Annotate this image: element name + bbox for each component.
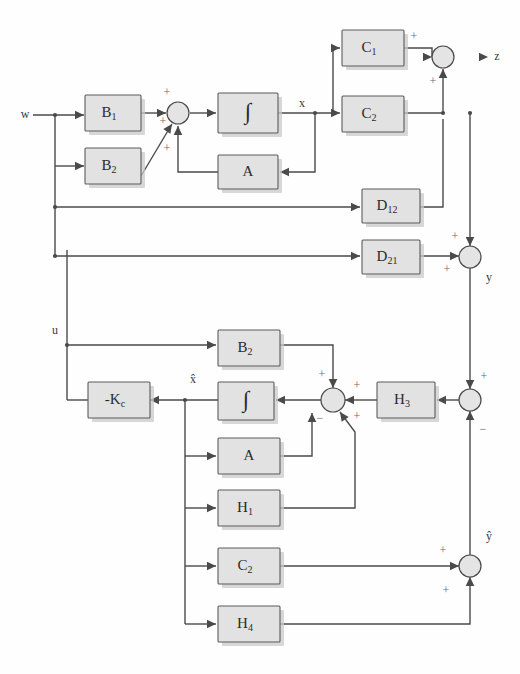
- sign-mark-s4-top: +: [319, 367, 326, 381]
- summing-junction-circle: [459, 555, 481, 577]
- block-label-subscript: 2: [248, 346, 253, 357]
- sign-mark-s2-top: +: [411, 29, 418, 43]
- block-label-subscript: 1: [372, 46, 377, 57]
- sign-mark-s1-bot: +: [164, 141, 171, 155]
- block-h4[interactable]: H4: [218, 606, 284, 646]
- dot-w-tap: [53, 113, 57, 117]
- signal-label-x: x: [299, 96, 305, 110]
- sign-mark-s3-bot: +: [444, 262, 451, 276]
- summing-junction-s3[interactable]: [459, 246, 481, 268]
- signal-label-xhat: x̂: [190, 372, 196, 386]
- block-b2t[interactable]: B2: [85, 148, 145, 188]
- signal-label-w: w: [21, 107, 30, 121]
- dot-c2out: [441, 111, 445, 115]
- block-label-subscript: 12: [387, 204, 397, 215]
- arrowhead-ar-sum5-t: [466, 380, 475, 389]
- sign-mark-s6-left: +: [440, 543, 447, 557]
- block-label-subscript: 3: [405, 398, 410, 409]
- arrowhead-ar-sum6-b: [466, 577, 475, 586]
- block-layer: B1B2∫AC1C2D12D21B2-Kc∫H3AH1C2H4: [85, 30, 439, 646]
- wire-x-down-a: [280, 113, 315, 172]
- block-a1[interactable]: A: [218, 155, 282, 193]
- arrowhead-ar-b2b-in: [207, 341, 216, 350]
- arrowhead-ar-b2-in: [75, 162, 84, 171]
- block-a2[interactable]: A: [218, 438, 284, 478]
- arrowhead-ar-h4-in: [207, 620, 216, 629]
- summing-junction-circle: [459, 246, 481, 268]
- summing-junction-circle: [459, 389, 481, 411]
- block-d12[interactable]: D12: [362, 189, 424, 227]
- block-int1[interactable]: ∫: [218, 93, 282, 137]
- arrowhead-ar-z: [479, 53, 488, 62]
- block-diagram-svg: B1B2∫AC1C2D12D21B2-Kc∫H3AH1C2H4 ++++++++…: [0, 0, 520, 674]
- block-label-subscript: 2: [372, 112, 377, 123]
- arrowhead-ar-sum4-r: [345, 396, 354, 405]
- block-label-subscript: 2: [248, 564, 253, 575]
- sign-mark-s5-bot: −: [480, 422, 487, 436]
- summing-junction-layer: [167, 46, 481, 577]
- wire-a2-out: [280, 413, 312, 456]
- wire-a1-out: [178, 126, 218, 172]
- dot-xhat: [183, 398, 187, 402]
- dot-c2out2: [468, 111, 472, 115]
- sign-mark-s4-bl: −: [317, 411, 324, 425]
- arrowhead-ar-sum3-l: [450, 252, 459, 261]
- signal-label-u: u: [52, 323, 58, 337]
- block-label-subscript: 2: [112, 164, 117, 175]
- arrowhead-ar-sum5-b: [466, 411, 475, 420]
- arrowhead-ar-d21-in: [351, 252, 360, 261]
- wire-h1-out: [280, 412, 355, 508]
- signal-label-yhat: ŷ: [486, 529, 492, 543]
- summing-junction-s5[interactable]: [459, 389, 481, 411]
- block-diagram-canvas: B1B2∫AC1C2D12D21B2-Kc∫H3AH1C2H4 ++++++++…: [0, 0, 520, 674]
- sign-mark-s4-br: +: [354, 409, 361, 423]
- arrowhead-ar-sum3-t: [466, 237, 475, 246]
- block-label: A: [244, 447, 255, 463]
- block-int2[interactable]: ∫: [218, 382, 278, 424]
- signal-label-z: z: [494, 49, 499, 63]
- arrowhead-ar-sum6-l: [450, 562, 459, 571]
- summing-junction-s6[interactable]: [459, 555, 481, 577]
- block-label-subscript: c: [121, 398, 126, 409]
- dot-w-256: [53, 254, 57, 258]
- arrowhead-ar-sum2-l: [423, 53, 432, 62]
- arrowhead-ar-sum1-b: [174, 126, 183, 135]
- sign-mark-s3-top: +: [452, 229, 459, 243]
- block-label-subscript: 4: [248, 622, 253, 633]
- block-label-subscript: 21: [387, 255, 397, 266]
- block-c2t[interactable]: C2: [342, 96, 408, 136]
- summing-junction-circle: [167, 102, 189, 124]
- arrowhead-ar-sum4-bl: [308, 413, 317, 422]
- arrowhead-ar-c1-in: [331, 44, 340, 53]
- sign-mark-s2-bot: +: [430, 74, 437, 88]
- summing-junction-s1[interactable]: [167, 102, 189, 124]
- wire-x-up-c1: [333, 48, 340, 113]
- block-d21[interactable]: D21: [362, 240, 424, 278]
- summing-junction-s4[interactable]: [321, 388, 345, 412]
- arrowhead-ar-d12-in: [351, 203, 360, 212]
- block-b1[interactable]: B1: [85, 95, 145, 135]
- sign-mark-s6-bot: +: [443, 583, 450, 597]
- sign-mark-s1-left: +: [160, 114, 167, 128]
- block-h3[interactable]: H3: [377, 382, 439, 422]
- sign-mark-s4-right: +: [354, 378, 361, 392]
- arrowhead-ar-sum2-b: [439, 69, 448, 78]
- arrowhead-ar-a2-in: [207, 452, 216, 461]
- arrowhead-ar-h1-in: [207, 504, 216, 513]
- block-h1[interactable]: H1: [218, 490, 284, 530]
- wire-h4-out: [280, 577, 470, 624]
- arrowhead-ar-sum4-t: [329, 379, 338, 388]
- block-b2b[interactable]: B2: [218, 330, 284, 370]
- summing-junction-circle: [321, 388, 345, 412]
- block-c1[interactable]: C1: [342, 30, 408, 70]
- summing-junction-s2[interactable]: [432, 46, 454, 68]
- arrowhead-ar-b1-in: [75, 111, 84, 120]
- signal-label-y: y: [486, 270, 492, 284]
- arrowhead-ar-c2b-in: [207, 562, 216, 571]
- dot-x-a: [313, 111, 317, 115]
- block-label-subscript: 1: [112, 111, 117, 122]
- sign-mark-s1-top: +: [164, 85, 171, 99]
- block-kc[interactable]: -Kc: [88, 382, 154, 422]
- dot-w-207: [53, 205, 57, 209]
- block-c2b[interactable]: C2: [218, 548, 284, 588]
